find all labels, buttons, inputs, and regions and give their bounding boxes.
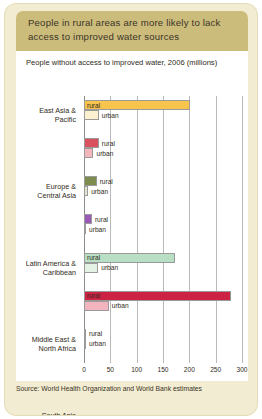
bar-value-label-rural: rural [98, 177, 113, 186]
bar-value-label-urban: urban [87, 225, 106, 234]
bar-row: urban [84, 339, 242, 349]
bar-rural [84, 138, 99, 148]
bar-row: urban [84, 301, 242, 311]
bar-row: rural [84, 329, 242, 339]
bar-chart: 050100150200250300ruralurbanEast Asia &P… [16, 51, 248, 381]
x-axis-tick-label: 150 [157, 366, 168, 373]
bar-value-label-urban: urban [94, 149, 113, 158]
bar-value-label-rural: rural [87, 329, 102, 338]
bar-value-label-urban: urban [99, 263, 118, 272]
bar-group: ruralurbanHigh-income [84, 329, 242, 349]
bar-row: rural [84, 253, 242, 263]
bar-group: ruralurbanEast Asia &Pacific [84, 100, 242, 120]
bar-value-label-rural: rural [85, 253, 100, 262]
bar-urban [84, 186, 88, 196]
gridline [242, 96, 243, 363]
chart-panel: People without access to improved water,… [16, 51, 248, 381]
category-label: Pacific [4, 115, 76, 124]
category-label: Central Asia [4, 191, 76, 200]
bar-row: rural [84, 100, 242, 110]
bar-row: urban [84, 148, 242, 158]
bar-value-label-urban: urban [100, 111, 119, 120]
category-label: Europe & [4, 182, 76, 191]
bar-row: urban [84, 224, 242, 234]
x-axis-tick-label: 300 [236, 366, 247, 373]
bar-value-label-urban: urban [89, 187, 108, 196]
bar-row: urban [84, 110, 242, 120]
bar-group: ruralurbanMiddle East &North Africa [84, 214, 242, 234]
bar-value-label-urban: urban [87, 339, 106, 348]
plot-area: 050100150200250300ruralurbanEast Asia &P… [84, 96, 242, 363]
x-axis-tick-label: 250 [210, 366, 221, 373]
category-label: South Asia [4, 411, 76, 416]
bar-group: ruralurbanEurope &Central Asia [84, 138, 242, 158]
category-label: East Asia & [4, 106, 76, 115]
bar-urban [84, 339, 86, 349]
source-note: Source: World Health Organization and Wo… [16, 385, 248, 392]
bar-row: rural [84, 138, 242, 148]
figure-title: People in rural areas are more likely to… [28, 16, 238, 43]
bar-value-label-rural: rural [85, 101, 100, 110]
bar-rural [84, 176, 97, 186]
bar-group: ruralurbanSouth Asia [84, 253, 242, 273]
bar-row: rural [84, 176, 242, 186]
x-axis-tick-label: 50 [107, 366, 114, 373]
bar-row: rural [84, 214, 242, 224]
bar-urban [84, 301, 109, 311]
category-label: Caribbean [4, 268, 76, 277]
category-label-group: Latin America &Caribbean [4, 259, 76, 277]
bar-value-label-rural: rural [93, 215, 108, 224]
figure-header-band: People in rural areas are more likely to… [16, 11, 248, 51]
category-label-group: Europe &Central Asia [4, 182, 76, 200]
bar-urban [84, 110, 99, 120]
bar-row: urban [84, 263, 242, 273]
bar-row: rural [84, 291, 242, 301]
category-label-group: East Asia &Pacific [4, 106, 76, 124]
bar-row: urban [84, 186, 242, 196]
category-label: Latin America & [4, 259, 76, 268]
bar-urban [84, 148, 93, 158]
category-label: Middle East & [4, 335, 76, 344]
bar-urban [84, 263, 98, 273]
x-axis-tick-label: 200 [184, 366, 195, 373]
category-label-group: Middle East &North Africa [4, 335, 76, 353]
bar-group: ruralurbanSub-SaharanAfrica [84, 291, 242, 311]
figure-card: People in rural areas are more likely to… [4, 3, 258, 416]
bar-value-label-rural: rural [100, 139, 115, 148]
bar-rural [84, 214, 92, 224]
category-label-group: South Asia [4, 411, 76, 416]
bar-rural [84, 329, 86, 339]
bar-urban [84, 224, 86, 234]
bar-group: ruralurbanLatin America &Caribbean [84, 176, 242, 196]
bar-value-label-urban: urban [110, 301, 129, 310]
bar-rural [84, 291, 231, 301]
category-label: North Africa [4, 344, 76, 353]
x-axis-tick-label: 0 [82, 366, 86, 373]
bar-value-label-rural: rural [85, 291, 100, 300]
x-axis-tick-label: 100 [131, 366, 142, 373]
